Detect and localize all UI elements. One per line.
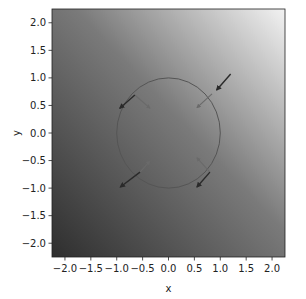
y-tick-label: −1.5 [22, 210, 46, 221]
gradient-background [52, 9, 285, 257]
y-tick-label: 1.0 [30, 72, 46, 83]
x-tick-label: 0.0 [161, 263, 177, 274]
y-tick-label: −2.0 [22, 238, 46, 249]
y-axis-label: y [11, 130, 22, 136]
x-axis-label: x [166, 283, 172, 294]
x-tick-label: 0.5 [186, 263, 202, 274]
x-tick-label: −2.0 [53, 263, 77, 274]
y-tick-label: −1.0 [22, 183, 46, 194]
quiver-figure: −2.0−1.5−1.0−0.50.00.51.01.52.0 2.01.51.… [0, 0, 306, 299]
y-axis: 2.01.51.00.50.0−0.5−1.0−1.5−2.0 [22, 17, 52, 248]
x-tick-label: 1.0 [212, 263, 228, 274]
plot-area [52, 9, 285, 257]
y-tick-label: 2.0 [30, 17, 46, 28]
x-tick-label: 1.5 [238, 263, 254, 274]
x-tick-label: −1.0 [105, 263, 129, 274]
x-tick-label: −0.5 [130, 263, 154, 274]
x-tick-label: −1.5 [79, 263, 103, 274]
y-tick-label: 0.0 [30, 128, 46, 139]
x-tick-label: 2.0 [264, 263, 280, 274]
x-axis: −2.0−1.5−1.0−0.50.00.51.01.52.0 [53, 257, 280, 274]
y-tick-label: −0.5 [22, 155, 46, 166]
y-tick-label: 1.5 [30, 45, 46, 56]
y-tick-label: 0.5 [30, 100, 46, 111]
